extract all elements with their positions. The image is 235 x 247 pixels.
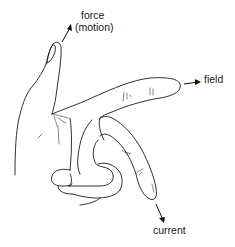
palm-crease <box>52 114 68 126</box>
thumbnail <box>47 45 55 63</box>
thumb <box>46 42 61 114</box>
field-arrow <box>184 79 201 85</box>
curled-finger-tip <box>51 169 72 186</box>
motion-label: (motion) <box>75 22 114 33</box>
index-finger <box>52 78 180 118</box>
field-label: field <box>204 74 223 85</box>
middle-finger <box>100 117 157 200</box>
hand-illustration <box>0 0 235 247</box>
force-label: force <box>81 10 104 21</box>
current-label: current <box>153 225 186 236</box>
ring-finger <box>68 140 113 186</box>
force-arrow <box>62 24 72 42</box>
current-arrow <box>156 204 165 223</box>
hand-back-edge <box>15 64 46 175</box>
